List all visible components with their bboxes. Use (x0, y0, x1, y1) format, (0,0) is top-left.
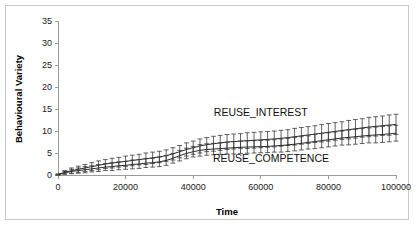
y-tick-label: 35 (42, 16, 52, 26)
x-axis-title: Time (216, 206, 238, 217)
y-tick-label: 15 (42, 104, 52, 114)
y-axis-title: Behavioural Variety (13, 54, 24, 143)
x-tick-label: 80000 (316, 182, 341, 192)
x-tick-label: 20000 (113, 182, 138, 192)
series-annotation: REUSE_INTEREST (214, 106, 309, 118)
series-annotation: REUSE_COMPETENCE (213, 152, 329, 164)
y-tick-label: 10 (42, 126, 52, 136)
y-tick-label: 25 (42, 60, 52, 70)
x-axis: 020000400006000080000100000 (55, 175, 411, 192)
series-reuse-competence (56, 125, 399, 175)
y-tick-label: 30 (42, 38, 52, 48)
y-tick-label: 5 (47, 148, 52, 158)
behavioural-variety-chart: 05101520253035 0200004000060000800001000… (0, 0, 417, 232)
y-tick-label: 0 (47, 170, 52, 180)
x-tick-label: 0 (55, 182, 60, 192)
series-annotations: REUSE_INTERESTREUSE_COMPETENCE (213, 106, 329, 164)
x-tick-label: 60000 (248, 182, 273, 192)
y-tick-label: 20 (42, 82, 52, 92)
data-series-group (56, 114, 399, 175)
x-tick-label: 100000 (381, 182, 411, 192)
x-tick-label: 40000 (181, 182, 206, 192)
y-axis: 05101520253035 (42, 16, 58, 180)
